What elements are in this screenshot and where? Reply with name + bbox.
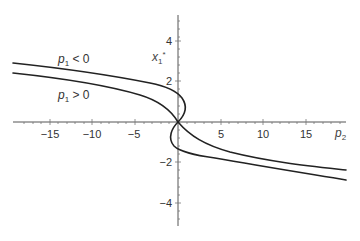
series-label-p1-positive: p1 > 0 [57, 88, 90, 104]
chart: −15 −10 −5 5 10 15 4 2 −2 −4 p1 < 0 p1 >… [0, 0, 360, 241]
x-tick-label: −10 [83, 128, 102, 140]
y-axis-label: x1* [151, 50, 166, 66]
x-axis-label: p2 [334, 126, 347, 142]
y-tick-label: 4 [166, 35, 172, 47]
x-tick-label: −5 [128, 128, 141, 140]
series-label-p1-negative: p1 < 0 [57, 52, 90, 68]
y-tick-label: 2 [166, 75, 172, 87]
x-tick-label: 15 [300, 128, 312, 140]
x-tick-label: −15 [41, 128, 60, 140]
y-tick-label: −2 [159, 156, 172, 168]
y-tick-label: −4 [159, 197, 172, 209]
x-tick-label: 10 [257, 128, 269, 140]
x-tick-label: 5 [218, 128, 224, 140]
